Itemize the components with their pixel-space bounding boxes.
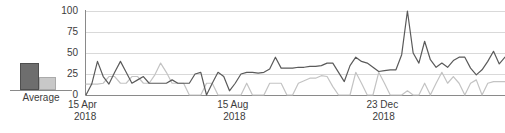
legend-current-average-bar [20,63,39,90]
chart-widget: Average 0255075100 15 Apr201815 Aug20182… [0,0,505,133]
plot-area [60,0,505,133]
line-chart: 0255075100 15 Apr201815 Aug201823 Dec201… [60,0,505,133]
